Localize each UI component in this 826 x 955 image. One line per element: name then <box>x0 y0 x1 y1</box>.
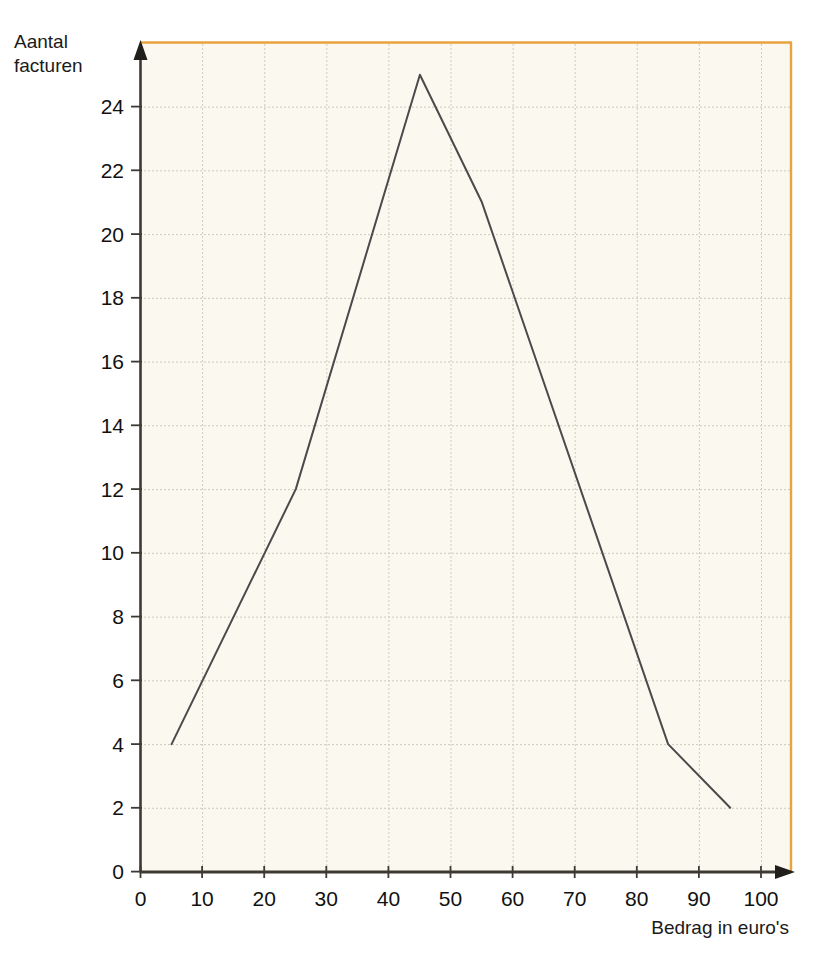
y-tick-label: 22 <box>101 159 124 182</box>
x-tick-label: 60 <box>501 887 524 910</box>
y-tick-label: 16 <box>101 350 124 373</box>
x-tick-label: 100 <box>743 887 778 910</box>
y-tick-label: 2 <box>112 796 124 819</box>
x-tick-label: 70 <box>563 887 586 910</box>
chart-page: 24 22 20 18 16 14 12 10 8 6 4 2 0 0 10 2… <box>0 0 826 955</box>
y-tick-label: 10 <box>101 541 124 564</box>
y-tick-label: 20 <box>101 223 124 246</box>
x-tick-label: 40 <box>377 887 400 910</box>
x-tick-label: 0 <box>135 887 147 910</box>
y-axis-tick-labels: 24 22 20 18 16 14 12 10 8 6 4 2 0 <box>101 95 125 883</box>
y-axis-title: Aantal facturen <box>14 31 83 76</box>
y-tick-label: 8 <box>112 605 124 628</box>
x-axis-tick-labels: 0 10 20 30 40 50 60 70 80 90 100 <box>135 887 779 910</box>
plot-background <box>140 42 792 872</box>
x-tick-label: 90 <box>687 887 710 910</box>
x-axis-title: Bedrag in euro's <box>651 917 789 938</box>
chart-canvas: 24 22 20 18 16 14 12 10 8 6 4 2 0 0 10 2… <box>0 0 826 955</box>
y-tick-label: 14 <box>101 414 125 437</box>
y-axis-title-line-2: facturen <box>14 55 83 76</box>
y-tick-label: 18 <box>101 286 124 309</box>
x-tick-label: 20 <box>253 887 276 910</box>
frequency-polygon-chart: 24 22 20 18 16 14 12 10 8 6 4 2 0 0 10 2… <box>0 0 826 955</box>
x-tick-label: 50 <box>439 887 462 910</box>
y-tick-label: 6 <box>112 669 124 692</box>
y-tick-label: 4 <box>112 733 124 756</box>
x-tick-label: 30 <box>315 887 338 910</box>
y-tick-label: 24 <box>101 95 125 118</box>
x-tick-label: 80 <box>625 887 648 910</box>
y-tick-label: 0 <box>112 860 124 883</box>
y-tick-label: 12 <box>101 478 124 501</box>
x-tick-label: 10 <box>190 887 213 910</box>
y-axis-title-line-1: Aantal <box>14 31 68 52</box>
